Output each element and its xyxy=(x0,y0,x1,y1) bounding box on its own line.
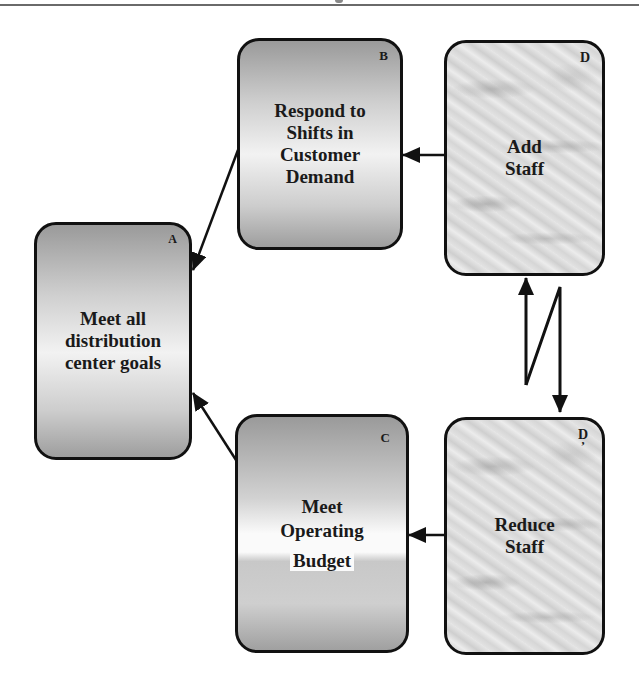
node-a-label: Meet all distribution center goals xyxy=(65,308,161,374)
node-d-prime-label: Reduce Staff xyxy=(494,514,554,558)
node-b: B Respond to Shifts in Customer Demand xyxy=(237,38,403,250)
node-c-label-line: Budget xyxy=(290,550,354,571)
node-a: A Meet all distribution center goals xyxy=(34,222,192,460)
conflict-zigzag-bolt xyxy=(526,287,560,412)
node-b-tag: B xyxy=(379,49,388,62)
node-b-label-line: Respond to xyxy=(274,100,365,122)
node-d-prime-label-line: Reduce xyxy=(494,514,554,536)
node-a-label-line: Meet all xyxy=(65,308,161,330)
node-a-label-line: center goals xyxy=(65,352,161,374)
node-c: C Meet Operating Budget xyxy=(235,414,409,653)
node-c-label-line: Operating xyxy=(280,519,363,543)
node-b-label: Respond to Shifts in Customer Demand xyxy=(274,100,365,188)
node-d-prime-label-line: Staff xyxy=(494,536,554,558)
arrow-c-to-a xyxy=(193,393,236,460)
node-b-label-line: Customer xyxy=(274,144,365,166)
node-a-label-line: distribution xyxy=(65,330,161,352)
node-d-label-line: Add xyxy=(505,136,544,158)
node-c-tag: C xyxy=(381,431,390,444)
node-d-label: Add Staff xyxy=(505,136,544,180)
node-d-label-line: Staff xyxy=(505,158,544,180)
node-d-prime-tag-suffix: ’ xyxy=(578,441,588,451)
node-b-label-line: Shifts in xyxy=(274,122,365,144)
node-d-prime: D ’ Reduce Staff xyxy=(444,417,605,655)
node-d: D Add Staff xyxy=(444,40,605,276)
node-c-label: Meet Operating Budget xyxy=(280,495,363,573)
arrow-b-to-a xyxy=(193,150,238,270)
node-d-tag: D xyxy=(580,51,590,64)
node-d-prime-tag: D ’ xyxy=(578,428,588,451)
node-a-tag: A xyxy=(168,233,177,246)
node-b-label-line: Demand xyxy=(274,166,365,188)
node-c-label-line: Meet xyxy=(280,495,363,519)
